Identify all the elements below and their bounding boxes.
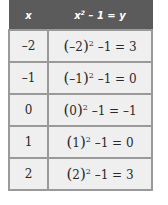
cell-x: 2	[9, 158, 48, 190]
cell-expression: (1)2 –1 = 0	[48, 126, 152, 158]
table-row: 1 (1)2 –1 = 0	[9, 126, 152, 158]
table-row: –1 (–1)2 –1 = 0	[9, 62, 152, 94]
cell-x: –1	[9, 62, 48, 94]
values-table: x x2 – 1 = y –2 (–2)2 –1 = 3 –1 (–1)2 –1…	[8, 0, 153, 191]
cell-expression: (2)2 –1 = 3	[48, 158, 152, 190]
table-row: –2 (–2)2 –1 = 3	[9, 30, 152, 62]
header-x: x	[9, 1, 48, 31]
cell-expression: (–1)2 –1 = 0	[48, 62, 152, 94]
table-row: 0 (0)2 –1 = –1	[9, 94, 152, 126]
cell-expression: (0)2 –1 = –1	[48, 94, 152, 126]
header-row: x x2 – 1 = y	[9, 1, 152, 31]
cell-x: 0	[9, 94, 48, 126]
table-row: 2 (2)2 –1 = 3	[9, 158, 152, 190]
cell-expression: (–2)2 –1 = 3	[48, 30, 152, 62]
header-expression: x2 – 1 = y	[48, 1, 152, 31]
cell-x: 1	[9, 126, 48, 158]
cell-x: –2	[9, 30, 48, 62]
